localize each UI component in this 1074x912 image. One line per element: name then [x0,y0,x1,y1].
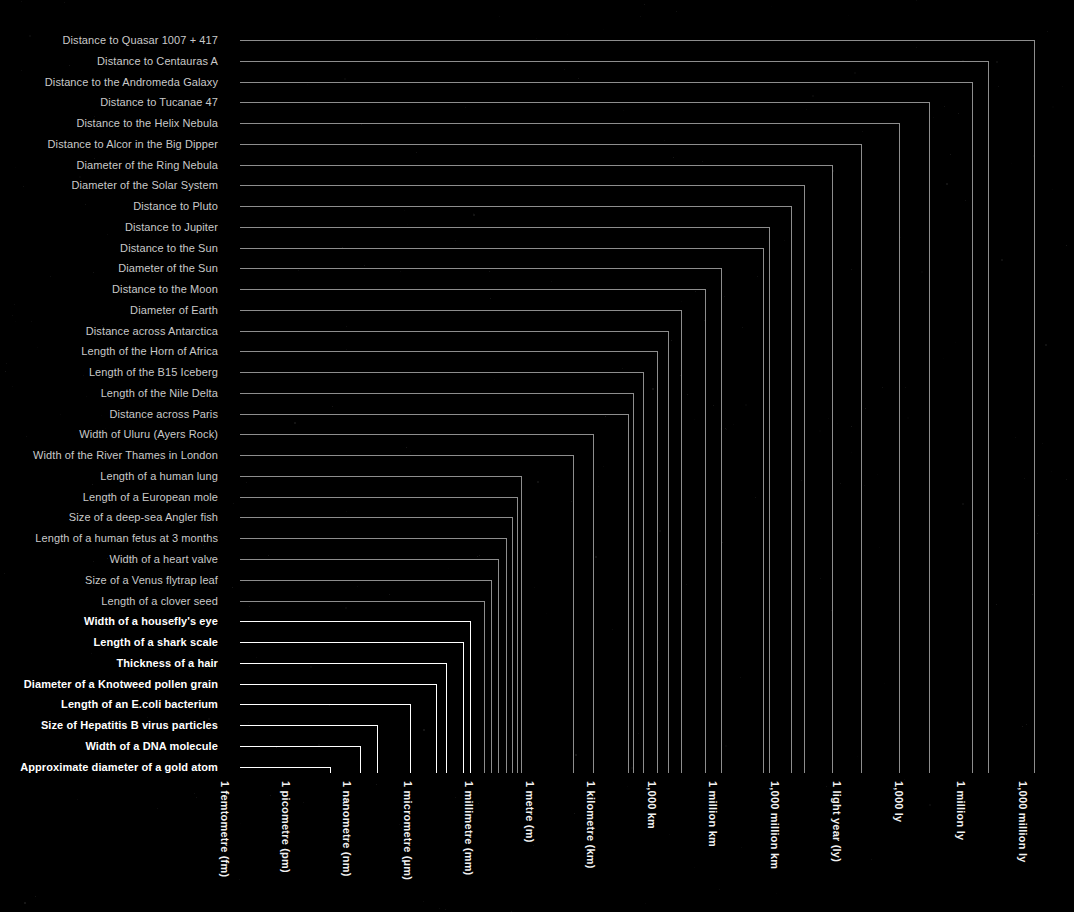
scale-row-label: Length of a clover seed [101,595,218,606]
scale-row: Length of a human lung [0,476,1074,477]
scale-row-bar [861,144,862,773]
x-axis-tick-label: 1 metre (m) [524,781,535,843]
scale-row: Diameter of Earth [0,310,1074,311]
scale-row-lead-line [240,414,628,415]
scale-row-lead-line [240,351,657,352]
x-axis-tick-label: 1 million ly [955,781,966,840]
scale-row-bar [988,61,989,773]
scale-row-label: Distance to Centauras A [97,55,218,66]
scale-row-bar [484,601,485,773]
scale-row-lead-line [240,144,861,145]
scale-row: Diameter of a Knotweed pollen grain [0,684,1074,685]
scale-row: Diameter of the Sun [0,268,1074,269]
x-axis-tick-label: 1 millimetre (mm) [463,781,474,875]
scale-row-label: Distance to Tucanae 47 [100,97,218,108]
x-axis-tick-label: 1,000 km [646,781,657,829]
scale-row-bar [721,268,722,773]
scale-row-lead-line [240,102,929,103]
scale-row-lead-line [240,227,769,228]
x-axis-tick-label: 1 micrometre (µm) [402,781,413,880]
scale-row-label: Distance across Paris [110,408,218,419]
scale-row-bar [832,165,833,773]
scale-row: Width of a DNA molecule [0,746,1074,747]
scale-row-label: Length of a human fetus at 3 months [35,533,218,544]
scale-row: Size of a deep-sea Angler fish [0,517,1074,518]
scale-row: Length of a European mole [0,497,1074,498]
scale-row-label: Length of a human lung [100,470,218,481]
scale-row: Length of a human fetus at 3 months [0,538,1074,539]
scale-row-bar [633,393,634,773]
scale-row: Length of the Nile Delta [0,393,1074,394]
scale-row: Length of the Horn of Africa [0,351,1074,352]
scale-row-label: Width of a housefly's eye [84,616,218,627]
scale-row: Distance to Alcor in the Big Dipper [0,144,1074,145]
x-axis-tick-label: 1 nanometre (nm) [341,781,352,877]
x-axis: 1 femtometre (fm)1 picometre (pm)1 nanom… [0,773,1074,774]
scale-row: Width of a housefly's eye [0,621,1074,622]
scale-row-lead-line [240,61,988,62]
x-axis-tick-label: 1 million km [707,781,718,847]
scale-row-bar [463,642,464,773]
x-axis-tick-label: 1 femtometre (fm) [219,781,230,877]
scale-row-label: Length of a shark scale [93,637,218,648]
scale-row-bar [929,102,930,773]
scale-row: Distance to Tucanae 47 [0,102,1074,103]
x-axis-tick-label: 1 light year (ly) [831,781,842,862]
x-axis-tick-label: 1,000 million km [769,781,780,869]
scale-row-lead-line [240,580,491,581]
scale-row-label: Length of an E.coli bacterium [61,699,218,710]
scale-row: Distance to the Andromeda Galaxy [0,82,1074,83]
scale-row: Distance to the Sun [0,248,1074,249]
scale-row: Distance to Centauras A [0,61,1074,62]
scale-row-lead-line [240,767,330,768]
scale-row: Size of Hepatitis B virus particles [0,725,1074,726]
scale-row-bar [436,684,437,773]
scale-chart-plot: Distance to Quasar 1007 + 417Distance to… [0,0,1074,912]
scale-row-bar [512,517,513,773]
scale-row-lead-line [240,621,470,622]
scale-row-bar [705,289,706,773]
scale-row-bar [446,663,447,773]
scale-row-lead-line [240,248,763,249]
scale-row-label: Distance to the Helix Nebula [76,118,218,129]
scale-row-bar [593,434,594,773]
scale-row-label: Length of a European mole [83,491,218,502]
scale-row-label: Size of a deep-sea Angler fish [69,512,218,523]
scale-row-label: Diameter of the Solar System [72,180,218,191]
scale-row-bar [498,559,499,773]
scale-row-label: Distance to the Sun [120,242,218,253]
scale-row-lead-line [240,601,484,602]
scale-row: Diameter of the Ring Nebula [0,165,1074,166]
scale-row-lead-line [240,206,791,207]
scale-row-label: Distance to the Moon [112,284,218,295]
scale-row: Width of a heart valve [0,559,1074,560]
scale-row: Width of the River Thames in London [0,455,1074,456]
scale-row: Distance across Paris [0,414,1074,415]
scale-row-lead-line [240,684,436,685]
scale-row-bar [628,414,629,773]
scale-row-bar [769,227,770,773]
scale-row: Approximate diameter of a gold atom [0,767,1074,768]
scale-row-label: Width of a heart valve [109,554,218,565]
scale-row-bar [763,248,764,773]
scale-row-lead-line [240,434,593,435]
scale-row-lead-line [240,310,681,311]
scale-row-label: Diameter of Earth [130,304,218,315]
scale-row-bar [521,476,522,773]
scale-row-lead-line [240,559,498,560]
scale-row-label: Width of the River Thames in London [33,450,218,461]
scale-row-lead-line [240,165,832,166]
x-axis-tick-label: 1,000 million ly [1017,781,1028,862]
scale-row: Size of a Venus flytrap leaf [0,580,1074,581]
scale-row: Length of the B15 Iceberg [0,372,1074,373]
scale-row-lead-line [240,476,521,477]
scale-row: Distance to Quasar 1007 + 417 [0,40,1074,41]
scale-row-lead-line [240,268,721,269]
scale-row-bar [410,704,411,773]
scale-row: Length of a clover seed [0,601,1074,602]
scale-row-bar [491,580,492,773]
scale-row-lead-line [240,497,517,498]
scale-row-lead-line [240,704,410,705]
scale-row: Distance to Jupiter [0,227,1074,228]
scale-row-label: Diameter of the Ring Nebula [77,159,219,170]
